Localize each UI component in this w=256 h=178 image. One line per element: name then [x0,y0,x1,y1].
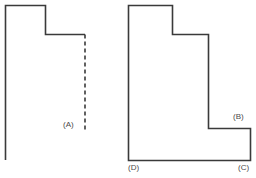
right-figure-outline [129,6,251,161]
vertex-label-d: (D) [128,163,139,172]
left-figure-solid-outline [6,6,86,161]
figure-canvas: (A) (B) (C) (D) [0,0,256,178]
left-figure-group [6,6,86,161]
vertex-label-b: (B) [233,112,244,121]
right-figure-group [129,6,251,161]
figure-drawing [0,0,256,178]
vertex-label-a: (A) [63,120,74,129]
vertex-label-c: (C) [238,163,249,172]
